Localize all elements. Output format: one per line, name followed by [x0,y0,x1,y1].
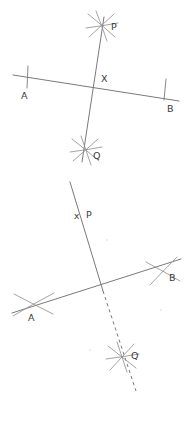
paper-speck [89,349,90,350]
top-label-q: Q [93,150,100,161]
bottom-line-q-dashed [103,291,136,391]
top-tick-b [164,79,166,100]
top-line-ab [13,75,179,101]
top-diagram: A B P Q X [13,11,179,165]
top-label-p: P [111,21,117,32]
paper-speck [106,239,107,240]
bottom-label-b: B [169,272,176,283]
bottom-label-p: P [86,209,92,220]
bottom-tick-x-mark: x [74,211,80,221]
bottom-label-q: Q [131,350,138,361]
geometry-figure-root: A B P Q X [0,0,191,423]
bottom-line-p-segment [70,182,103,291]
top-label-b: B [167,103,174,114]
bottom-label-a: A [28,312,35,323]
construction-diagram-canvas: A B P Q X [0,0,191,423]
top-label-a: A [21,90,28,101]
top-tick-a [27,66,28,88]
bottom-diagram: x A B P Q [12,182,181,391]
top-label-x: X [101,73,108,84]
top-line-pq [82,17,104,162]
paper-speck [160,309,161,310]
